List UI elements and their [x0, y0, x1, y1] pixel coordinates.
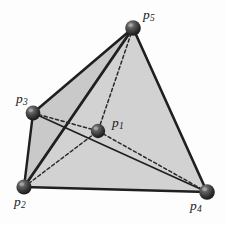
label-subscript-p3: 3	[23, 97, 28, 107]
vertex-sphere-p2	[16, 179, 31, 194]
label-letter-p4: p	[190, 198, 197, 213]
vertex-p2	[16, 179, 31, 194]
label-subscript-p1: 1	[119, 121, 124, 131]
vertex-p5	[125, 20, 141, 36]
label-letter-p5: p	[143, 7, 150, 22]
vertex-p3	[26, 106, 41, 121]
vertex-p4	[199, 184, 215, 200]
label-subscript-p2: 2	[21, 200, 26, 210]
vertex-label-p4: p4	[190, 199, 202, 215]
vertex-p1	[91, 124, 105, 138]
label-letter-p1: p	[112, 115, 119, 130]
vertex-sphere-p4	[199, 184, 215, 200]
vertex-highlight-p2	[19, 183, 24, 186]
vertex-highlight-p4	[202, 187, 207, 191]
vertex-sphere-p5	[125, 20, 141, 36]
vertex-sphere-p1	[91, 124, 105, 138]
polyhedron-svg	[0, 0, 225, 225]
vertex-sphere-p3	[26, 106, 41, 121]
label-letter-p2: p	[14, 194, 21, 209]
polyhedron-figure: p1p2p3p4p5	[0, 0, 225, 225]
vertex-highlight-p1	[94, 127, 98, 130]
label-subscript-p5: 5	[150, 13, 155, 23]
vertex-label-p5: p5	[143, 8, 155, 24]
vertex-highlight-p3	[29, 109, 33, 112]
vertex-label-p3: p3	[16, 92, 28, 108]
vertex-label-p1: p1	[112, 116, 124, 132]
label-subscript-p4: 4	[197, 204, 202, 214]
vertex-label-p2: p2	[14, 195, 26, 211]
label-letter-p3: p	[16, 91, 23, 106]
vertex-highlight-p5	[128, 23, 133, 27]
